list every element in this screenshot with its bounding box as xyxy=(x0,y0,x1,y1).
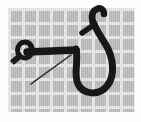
hook-artwork xyxy=(0,0,141,122)
hook-barb-spur xyxy=(82,24,95,33)
fish-hook-illustration: Black fish hook and tied line over gray … xyxy=(0,0,141,122)
hook-point-barb xyxy=(92,8,104,23)
fishing-line-highlight xyxy=(33,56,69,82)
knot-wrap xyxy=(21,43,30,49)
